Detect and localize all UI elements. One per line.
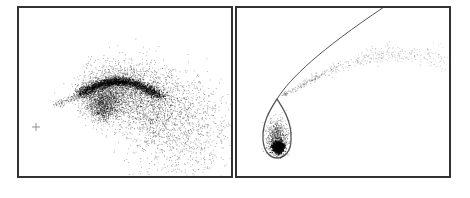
figure xyxy=(0,0,470,198)
right-scatter-panel xyxy=(235,6,451,178)
right-scatter-plot xyxy=(237,8,449,176)
left-scatter-plot xyxy=(19,8,231,176)
left-scatter-panel xyxy=(17,6,233,178)
parabolic-curve xyxy=(277,8,384,99)
